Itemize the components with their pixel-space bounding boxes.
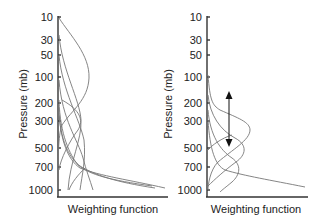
y-tick: 30 xyxy=(41,34,53,46)
y-tick: 300 xyxy=(35,115,53,127)
right-x-axis-label: Weighting function xyxy=(211,203,301,215)
right-curves xyxy=(208,75,305,192)
y-tick: 100 xyxy=(184,71,202,83)
y-tick: 50 xyxy=(41,49,53,61)
y-tick: 10 xyxy=(190,11,202,23)
y-tick: 200 xyxy=(35,97,53,109)
y-tick: 1000 xyxy=(178,184,202,196)
y-tick: 50 xyxy=(190,49,202,61)
left-curves xyxy=(58,18,165,190)
left-chart: Pressure (mb) 10 30 50 100 200 300 500 7… xyxy=(17,11,168,215)
right-y-axis-label: Pressure (mb) xyxy=(162,69,174,139)
figure: Pressure (mb) 10 30 50 100 200 300 500 7… xyxy=(0,0,334,224)
y-tick: 200 xyxy=(184,97,202,109)
y-tick: 500 xyxy=(184,142,202,154)
resolution-arrow xyxy=(226,91,233,147)
y-tick: 700 xyxy=(35,161,53,173)
y-tick: 500 xyxy=(35,142,53,154)
y-tick: 100 xyxy=(35,71,53,83)
y-tick: 10 xyxy=(41,11,53,23)
y-tick: 300 xyxy=(184,115,202,127)
left-axes xyxy=(57,16,168,197)
right-chart: Pressure (mb) 10 30 50 100 200 300 500 7… xyxy=(162,11,308,215)
y-tick: 30 xyxy=(190,34,202,46)
right-axes xyxy=(206,16,308,197)
y-tick: 700 xyxy=(184,161,202,173)
left-y-axis-label: Pressure (mb) xyxy=(17,69,29,139)
y-tick: 1000 xyxy=(29,184,53,196)
left-x-axis-label: Weighting function xyxy=(68,203,158,215)
